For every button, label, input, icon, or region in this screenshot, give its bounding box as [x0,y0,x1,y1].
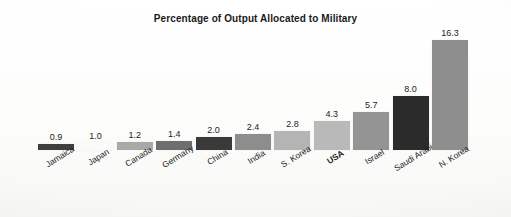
bar-value-label: 0.9 [50,132,63,142]
bar-group[interactable]: 8.0Saudi Arabia [393,96,429,150]
bar-rect[interactable] [314,121,350,150]
bar-group[interactable]: 16.3N. Korea [432,40,468,150]
bar-rect[interactable] [353,112,389,150]
bar-chart: Percentage of Output Allocated to Milita… [0,0,511,217]
bar-value-label: 16.3 [441,28,459,38]
bar-group[interactable]: 5.7Israel [353,112,389,150]
bar-value-label: 2.8 [286,119,299,129]
bar-group[interactable]: 2.4India [235,134,271,150]
bar-value-label: 2.0 [207,125,220,135]
bar-value-label: 2.4 [247,122,260,132]
bar-value-label: 1.4 [168,129,181,139]
bar-value-label: 8.0 [404,84,417,94]
bar-value-label: 1.2 [129,130,142,140]
bar-rect[interactable] [393,96,429,150]
bar-group[interactable]: 1.0Japan [77,143,113,150]
bar-value-label: 1.0 [89,131,102,141]
bar-value-label: 4.3 [326,109,339,119]
bar-rect[interactable] [235,134,271,150]
bar-value-label: 5.7 [365,100,378,110]
bar-group[interactable]: 2.0China [196,137,232,150]
bar-rect[interactable] [432,40,468,150]
plot-area: 0.9Jamaica1.0Japan1.2Canada1.4Germany2.0… [0,0,511,217]
category-label-india: India [246,148,267,166]
bar-rect[interactable] [77,143,113,150]
bar-group[interactable]: 1.2Canada [117,142,153,150]
bar-rect[interactable] [196,137,232,150]
bar-group[interactable]: 1.4Germany [156,141,192,150]
bar-group[interactable]: 2.8S. Korea [274,131,310,150]
bar-group[interactable]: 0.9Jamaica [38,144,74,150]
bar-group[interactable]: 4.3USA [314,121,350,150]
category-label-usa: USA [325,148,346,166]
